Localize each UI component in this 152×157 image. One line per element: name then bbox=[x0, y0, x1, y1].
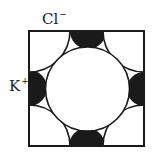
cation-bottom bbox=[69, 128, 105, 157]
cation-charge: + bbox=[21, 76, 29, 86]
anion-symbol: Cl bbox=[42, 10, 58, 28]
anion-center bbox=[46, 47, 130, 131]
anion-charge: − bbox=[59, 9, 67, 19]
cation-symbol: K bbox=[9, 77, 20, 95]
cation-right bbox=[127, 72, 152, 106]
anion-label: Cl− bbox=[42, 11, 67, 27]
cation-label: K+ bbox=[9, 78, 29, 94]
